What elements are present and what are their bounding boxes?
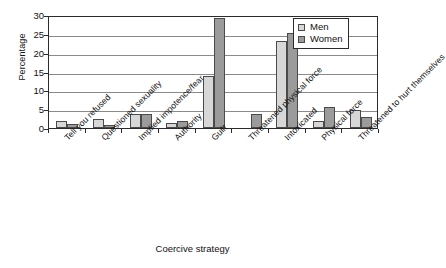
y-axis-tick-labels: 302520151050 — [22, 0, 44, 268]
x-tick-mark-0 — [48, 129, 49, 133]
y-tick-label-15: 15 — [26, 68, 44, 78]
y-tick-label-20: 20 — [26, 49, 44, 59]
legend-swatch-women-icon — [298, 36, 305, 43]
y-tick-mark-30 — [44, 16, 48, 17]
x-tick-mark-7 — [305, 129, 306, 133]
chart-legend: Men Women — [293, 18, 349, 49]
y-tick-mark-10 — [44, 91, 48, 92]
legend-label-women: Women — [310, 34, 343, 44]
legend-swatch-men-icon — [298, 24, 305, 31]
y-tick-mark-15 — [44, 73, 48, 74]
bar-men-1 — [93, 119, 104, 128]
x-tick-mark-1 — [85, 129, 86, 133]
legend-item-men: Men — [298, 21, 343, 33]
x-tick-mark-8 — [341, 129, 342, 133]
bar-men-3 — [166, 123, 177, 128]
y-tick-label-30: 30 — [26, 11, 44, 21]
y-tick-label-5: 5 — [26, 105, 44, 115]
y-tick-mark-5 — [44, 110, 48, 111]
x-tick-mark-2 — [121, 129, 122, 133]
y-tick-mark-0 — [44, 129, 48, 130]
bar-men-4 — [203, 76, 214, 128]
y-tick-mark-25 — [44, 35, 48, 36]
bar-men-0 — [56, 121, 67, 128]
x-tick-mark-9 — [378, 129, 379, 133]
x-tick-mark-4 — [195, 129, 196, 133]
x-axis-title: Coercive strategy — [0, 243, 385, 254]
legend-item-women: Women — [298, 33, 343, 45]
y-tick-label-25: 25 — [26, 30, 44, 40]
legend-label-men: Men — [310, 22, 328, 32]
bar-women-4 — [214, 18, 225, 128]
y-tick-mark-20 — [44, 54, 48, 55]
x-tick-mark-3 — [158, 129, 159, 133]
x-tick-mark-5 — [231, 129, 232, 133]
bar-men-7 — [313, 121, 324, 128]
y-tick-label-10: 10 — [26, 86, 44, 96]
x-tick-mark-6 — [268, 129, 269, 133]
y-tick-label-0: 0 — [26, 124, 44, 134]
